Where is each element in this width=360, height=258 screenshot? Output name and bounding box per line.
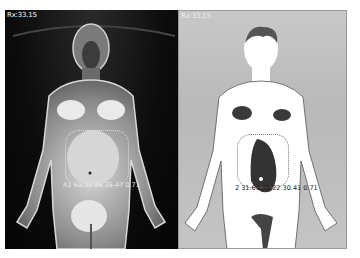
temperature-header: Rx:33.15 [181,12,211,20]
thermal-image-panel-right: Rx:33.15 2 31.69 29.22 30.41 0.71 [178,10,347,249]
thermal-image-panel-left: Rx:33.15 A1 63.32 26.35 47 0.71 [5,10,178,249]
roi-region [65,130,129,186]
roi-measurement-label: 2 31.69 29.22 30.41 0.71 [235,185,318,192]
temperature-header: Rx:33.15 [7,11,37,19]
roi-region [237,134,289,188]
roi-measurement-label: A1 63.32 26.35 47 0.71 [63,182,140,189]
threshold-body-figure [179,11,347,249]
